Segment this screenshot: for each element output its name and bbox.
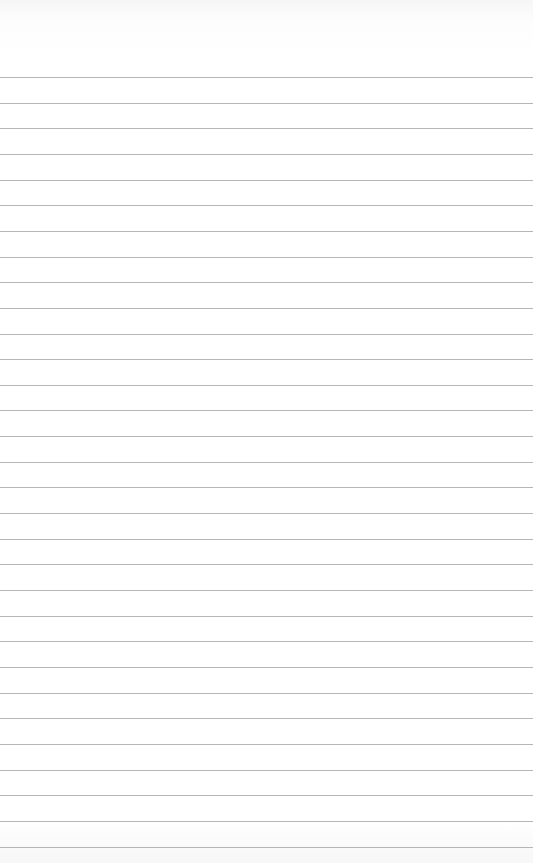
ruled-line [0, 539, 533, 540]
ruled-line [0, 821, 533, 822]
ruled-line [0, 462, 533, 463]
ruled-line [0, 590, 533, 591]
ruled-line [0, 154, 533, 155]
ruled-line [0, 795, 533, 796]
lined-paper [0, 0, 533, 863]
ruled-line [0, 334, 533, 335]
ruled-line [0, 487, 533, 488]
ruled-line [0, 231, 533, 232]
ruled-line [0, 77, 533, 78]
ruled-line [0, 410, 533, 411]
ruled-line [0, 103, 533, 104]
ruled-line [0, 257, 533, 258]
ruled-line [0, 359, 533, 360]
ruled-line [0, 564, 533, 565]
ruled-line [0, 128, 533, 129]
ruled-line [0, 385, 533, 386]
ruled-line [0, 718, 533, 719]
ruled-line [0, 744, 533, 745]
ruled-line [0, 308, 533, 309]
ruled-line [0, 282, 533, 283]
ruled-line [0, 436, 533, 437]
ruled-line [0, 641, 533, 642]
ruled-line [0, 180, 533, 181]
ruled-line [0, 847, 533, 848]
ruled-line [0, 616, 533, 617]
ruled-line [0, 205, 533, 206]
ruled-line [0, 513, 533, 514]
ruled-line [0, 667, 533, 668]
ruled-line [0, 693, 533, 694]
ruled-line [0, 770, 533, 771]
